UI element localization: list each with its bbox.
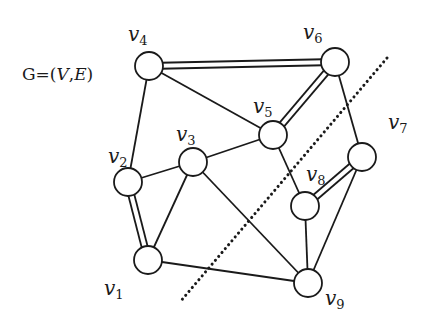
- node-label-v5: v5: [253, 96, 273, 119]
- node-v4: [135, 52, 163, 80]
- node-v1: [134, 246, 162, 274]
- label-base: v: [176, 122, 187, 146]
- label-base: v: [253, 94, 264, 118]
- node-v2: [114, 168, 142, 196]
- node-label-v2: v2: [108, 146, 128, 169]
- node-v8: [291, 192, 319, 220]
- node-v9: [294, 269, 322, 297]
- edge-v3-v1: [148, 162, 193, 260]
- label-subscript: 2: [119, 155, 127, 170]
- label-base: v: [108, 144, 119, 168]
- node-v6: [321, 48, 349, 76]
- node-v3: [179, 148, 207, 176]
- label-subscript: 1: [115, 287, 123, 302]
- label-subscript: 3: [187, 133, 195, 148]
- node-label-v1: v1: [104, 278, 124, 301]
- node-v7: [348, 143, 376, 171]
- node-label-v7: v7: [388, 112, 408, 135]
- edge-v1-v9: [148, 260, 308, 283]
- edge-v4-v2: [128, 66, 149, 182]
- edge-v3-v9: [193, 162, 308, 283]
- node-label-v3: v3: [176, 124, 196, 147]
- label-subscript: 4: [139, 33, 147, 48]
- edge-v4-v6: [149, 59, 335, 69]
- label-base: v: [303, 20, 314, 44]
- label-base: v: [325, 286, 336, 310]
- label-base: v: [104, 276, 115, 300]
- nodes: [114, 48, 376, 297]
- label-subscript: 9: [336, 297, 344, 312]
- node-label-v8: v8: [306, 164, 326, 187]
- graph-diagram: [0, 0, 424, 325]
- label-base: v: [388, 110, 399, 134]
- label-subscript: 5: [264, 105, 272, 120]
- label-subscript: 7: [399, 121, 407, 136]
- node-label-v9: v9: [325, 288, 345, 311]
- node-label-v4: v4: [128, 24, 148, 47]
- label-subscript: 8: [317, 173, 325, 188]
- label-subscript: 6: [314, 31, 322, 46]
- label-base: v: [128, 22, 139, 46]
- label-base: v: [306, 162, 317, 186]
- node-v5: [259, 121, 287, 149]
- node-label-v6: v6: [303, 22, 323, 45]
- edges: [125, 59, 364, 283]
